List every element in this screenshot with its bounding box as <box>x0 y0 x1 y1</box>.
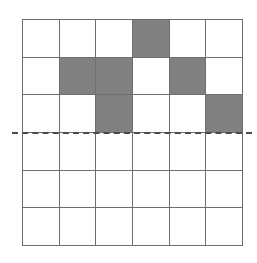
grid-cell-filled <box>170 58 207 96</box>
grid-cell-empty <box>60 95 97 133</box>
grid-cell-filled <box>96 58 133 96</box>
grid-cell-empty <box>23 171 60 209</box>
grid-cell-empty <box>60 171 97 209</box>
grid-cell-empty <box>23 208 60 246</box>
grid-cell-empty <box>23 58 60 96</box>
grid-cell-empty <box>23 133 60 171</box>
grid-cell-filled <box>60 58 97 96</box>
grid-cell-empty <box>133 133 170 171</box>
grid-cell-empty <box>60 208 97 246</box>
grid-cell-empty <box>96 20 133 58</box>
grid-cell-empty <box>60 133 97 171</box>
grid-cell-empty <box>96 171 133 209</box>
grid-cell-empty <box>170 171 207 209</box>
grid-cell-empty <box>170 20 207 58</box>
grid-cell-filled <box>133 20 170 58</box>
dashed-divider-line <box>12 132 252 134</box>
grid-cell-empty <box>206 20 243 58</box>
grid-cell-empty <box>206 58 243 96</box>
grid-cell-empty <box>133 171 170 209</box>
grid-cell-empty <box>23 95 60 133</box>
grid-cell-empty <box>170 95 207 133</box>
grid-cell-empty <box>133 95 170 133</box>
diagram-canvas <box>0 0 257 263</box>
grid-cell-empty <box>133 58 170 96</box>
grid-cell-empty <box>23 20 60 58</box>
grid-cell-filled <box>206 95 243 133</box>
grid-cell-empty <box>206 171 243 209</box>
grid-cell-filled <box>96 95 133 133</box>
grid-cell-empty <box>206 208 243 246</box>
grid-cell-empty <box>60 20 97 58</box>
grid-cell-empty <box>170 208 207 246</box>
grid-cell-empty <box>133 208 170 246</box>
grid-cell-empty <box>96 208 133 246</box>
grid-cell-empty <box>96 133 133 171</box>
grid-cell-empty <box>206 133 243 171</box>
grid-cell-empty <box>170 133 207 171</box>
